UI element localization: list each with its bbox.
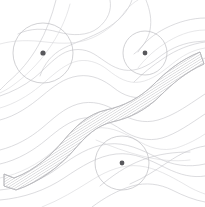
contour-lower-right-1 bbox=[130, 146, 205, 184]
contour-top-2 bbox=[40, 0, 132, 76]
hatched-band-group bbox=[4, 52, 204, 190]
contour-bottom-4 bbox=[92, 184, 205, 207]
contour-bottom-3 bbox=[42, 166, 205, 207]
marker-circle-bottom-center-dot bbox=[120, 161, 125, 166]
hatched-band-texture bbox=[4, 52, 204, 190]
illustration-canvas bbox=[0, 0, 205, 207]
contour-upper-right-1 bbox=[138, 18, 205, 52]
abstract-contour-artwork bbox=[0, 0, 205, 207]
marker-circle-top-left-dot bbox=[40, 50, 45, 55]
marker-circle-top-right-dot bbox=[143, 51, 148, 56]
contour-left-vertical-1 bbox=[0, 0, 56, 90]
contour-top-1 bbox=[18, 0, 111, 35]
